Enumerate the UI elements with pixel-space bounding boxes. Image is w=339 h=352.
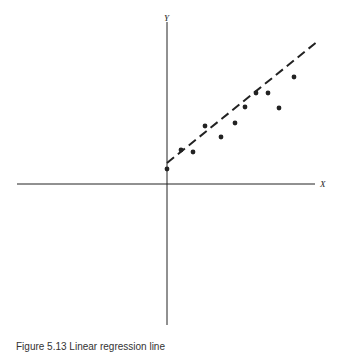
data-point [179, 148, 184, 153]
data-point [266, 91, 271, 96]
data-point [165, 167, 170, 172]
data-point [233, 121, 238, 126]
y-axis-label: Y [164, 13, 170, 23]
data-point [243, 105, 248, 110]
data-point [277, 106, 282, 111]
data-point [203, 124, 208, 129]
regression-line [167, 41, 318, 163]
figure-caption: Figure 5.13 Linear regression line [16, 341, 165, 352]
data-point [292, 75, 297, 80]
x-axis-label: X [319, 179, 326, 189]
axes: X Y [17, 13, 326, 325]
data-point [219, 135, 224, 140]
data-point [254, 91, 259, 96]
data-point [191, 150, 196, 155]
data-points [165, 75, 297, 172]
